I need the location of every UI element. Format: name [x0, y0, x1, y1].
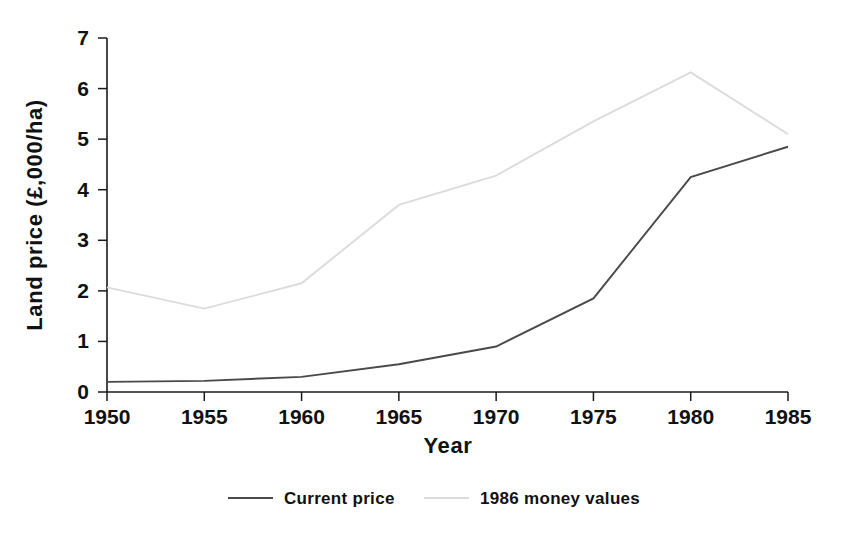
y-tick-label-6: 6	[77, 77, 89, 100]
x-tick-label-1955: 1955	[181, 405, 228, 428]
x-axis-tick-labels: 19501955196019651970197519801985	[84, 405, 812, 428]
y-tick-label-3: 3	[77, 228, 89, 251]
y-tick-label-7: 7	[77, 26, 89, 49]
y-tick-label-5: 5	[77, 127, 89, 150]
series-line-1986-money-values	[107, 72, 788, 308]
x-axis-title: Year	[424, 433, 473, 458]
legend-label-current-price: Current price	[284, 489, 395, 508]
y-tick-label-0: 0	[77, 380, 89, 403]
y-tick-label-4: 4	[77, 178, 89, 201]
x-tick-label-1960: 1960	[278, 405, 325, 428]
line-chart-figure: 01234567 1950195519601965197019751980198…	[0, 0, 843, 542]
x-tick-label-1975: 1975	[570, 405, 617, 428]
x-tick-label-1980: 1980	[667, 405, 714, 428]
chart-canvas: 01234567 1950195519601965197019751980198…	[0, 0, 843, 542]
y-tick-label-2: 2	[77, 279, 89, 302]
x-axis-ticks	[107, 392, 788, 401]
x-tick-label-1965: 1965	[375, 405, 422, 428]
y-tick-label-1: 1	[77, 329, 89, 352]
x-tick-label-1950: 1950	[84, 405, 131, 428]
y-axis-ticks	[98, 38, 107, 392]
x-tick-label-1970: 1970	[473, 405, 520, 428]
series-line-current-price	[107, 147, 788, 382]
legend-label-1986-money-values: 1986 money values	[480, 489, 640, 508]
y-axis-title: Land price (£,000/ha)	[22, 99, 47, 330]
chart-legend: Current price 1986 money values	[228, 489, 640, 508]
y-axis-tick-labels: 01234567	[77, 26, 89, 403]
x-tick-label-1985: 1985	[765, 405, 812, 428]
